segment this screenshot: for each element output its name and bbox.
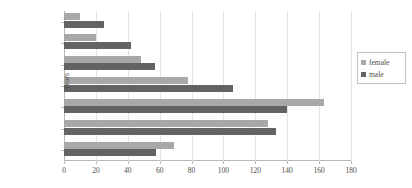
legend-label-male: male bbox=[369, 70, 384, 79]
legend-item-female[interactable]: female bbox=[361, 56, 403, 68]
bar-group bbox=[64, 54, 351, 75]
bar-group bbox=[64, 140, 351, 161]
bar-male[interactable] bbox=[64, 85, 233, 92]
x-axis-tick-label: 40 bbox=[113, 166, 143, 175]
bar-male[interactable] bbox=[64, 106, 287, 113]
bar-female[interactable] bbox=[64, 34, 96, 41]
y-axis-tick bbox=[61, 22, 64, 23]
y-axis-tick bbox=[61, 150, 64, 151]
bar-male[interactable] bbox=[64, 63, 155, 70]
x-axis-tick-label: 120 bbox=[240, 166, 270, 175]
bar-male[interactable] bbox=[64, 42, 131, 49]
bar-chart: 0 - 1415 - 2425 - 3435 - 4445 - 5455 - 6… bbox=[0, 0, 412, 188]
bar-group bbox=[64, 11, 351, 32]
y-axis-tick bbox=[61, 107, 64, 108]
gridline bbox=[351, 11, 352, 161]
y-axis-tick bbox=[61, 43, 64, 44]
bar-male[interactable] bbox=[64, 149, 156, 156]
legend-label-female: female bbox=[369, 58, 389, 67]
x-axis-tick bbox=[287, 161, 288, 164]
bar-male[interactable] bbox=[64, 128, 276, 135]
x-axis-tick-label: 20 bbox=[81, 166, 111, 175]
bar-female[interactable] bbox=[64, 56, 141, 63]
x-axis-tick-label: 140 bbox=[272, 166, 302, 175]
x-axis-tick-label: 100 bbox=[208, 166, 238, 175]
x-axis-tick bbox=[192, 161, 193, 164]
x-axis-tick bbox=[223, 161, 224, 164]
y-axis-title: years bbox=[62, 73, 71, 89]
x-axis-tick bbox=[319, 161, 320, 164]
x-axis-tick-label: 0 bbox=[49, 166, 79, 175]
bar-group bbox=[64, 32, 351, 53]
bar-female[interactable] bbox=[64, 99, 324, 106]
bar-group bbox=[64, 75, 351, 96]
y-axis-tick bbox=[61, 65, 64, 66]
legend-swatch-male bbox=[361, 72, 366, 77]
legend-item-male[interactable]: male bbox=[361, 68, 403, 80]
x-axis-tick bbox=[255, 161, 256, 164]
legend-swatch-female bbox=[361, 60, 366, 65]
x-axis-tick bbox=[160, 161, 161, 164]
x-axis-tick bbox=[64, 161, 65, 164]
x-axis-tick-label: 180 bbox=[336, 166, 366, 175]
x-axis-tick bbox=[96, 161, 97, 164]
y-axis-tick bbox=[61, 129, 64, 130]
bar-female[interactable] bbox=[64, 120, 268, 127]
x-axis-tick-label: 160 bbox=[304, 166, 334, 175]
x-axis-tick-label: 60 bbox=[145, 166, 175, 175]
x-axis-tick-label: 80 bbox=[177, 166, 207, 175]
x-axis-tick bbox=[128, 161, 129, 164]
plot-area: 0 - 1415 - 2425 - 3435 - 4445 - 5455 - 6… bbox=[64, 11, 351, 161]
bar-group bbox=[64, 118, 351, 139]
bar-female[interactable] bbox=[64, 13, 80, 20]
legend: female male bbox=[357, 52, 406, 84]
bar-female[interactable] bbox=[64, 142, 174, 149]
bar-female[interactable] bbox=[64, 77, 188, 84]
bar-group bbox=[64, 97, 351, 118]
x-axis-tick bbox=[351, 161, 352, 164]
bar-male[interactable] bbox=[64, 21, 104, 28]
